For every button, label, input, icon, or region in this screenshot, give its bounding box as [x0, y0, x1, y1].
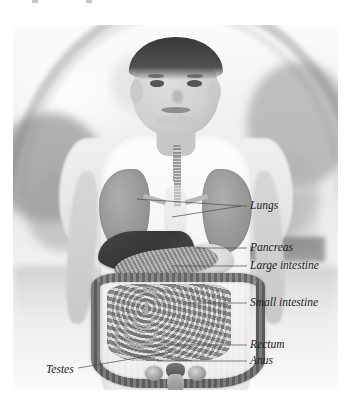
label-small-intestine: Small intestine — [250, 297, 318, 309]
organ-overlay — [13, 25, 338, 390]
label-anus: Anus — [250, 355, 273, 367]
small-intestine-organ — [107, 284, 231, 361]
label-pancreas: Pancreas — [250, 242, 293, 254]
clipped-text-mark-left — [32, 0, 38, 3]
label-rectum: Rectum — [250, 339, 284, 351]
testis-left-organ — [145, 366, 163, 381]
mediastinum-gap — [164, 186, 187, 237]
label-testes: Testes — [46, 364, 74, 376]
label-large-intestine: Large intestine — [250, 260, 319, 272]
lung-right-organ — [202, 169, 252, 253]
figure-container: Lungs Pancreas Large intestine Small int… — [0, 0, 352, 418]
scrotum-organ — [167, 374, 185, 390]
label-lungs: Lungs — [250, 200, 278, 212]
clipped-text-mark-right — [86, 0, 92, 3]
anatomy-photograph — [13, 25, 338, 390]
